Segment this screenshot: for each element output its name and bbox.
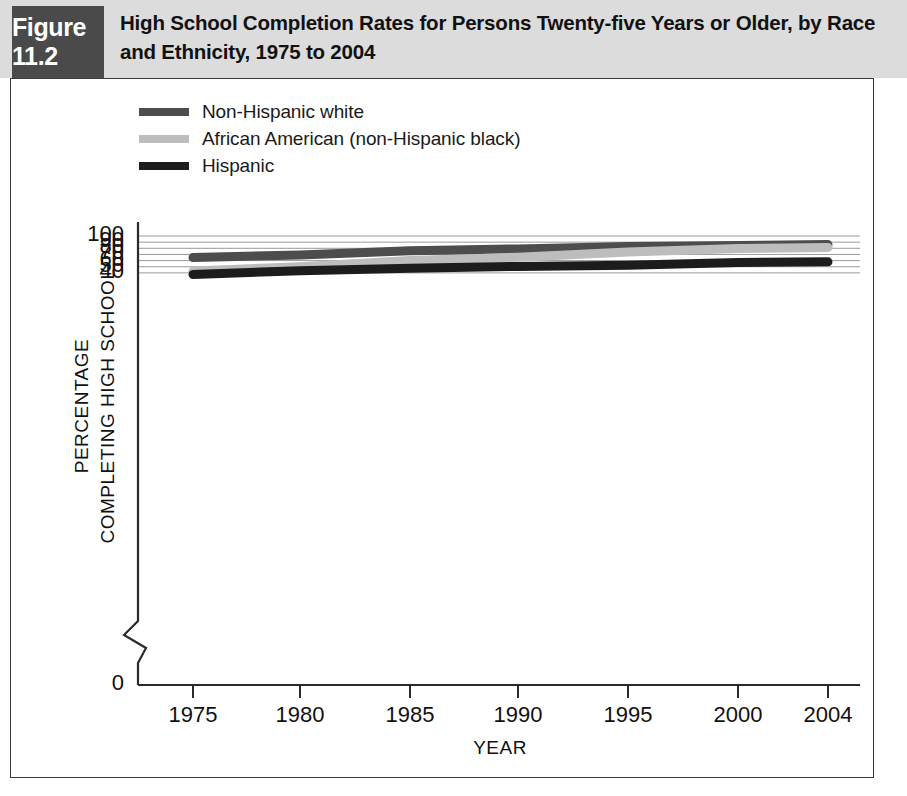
x-tick-label: 1975 bbox=[148, 702, 238, 728]
x-tick-label: 1980 bbox=[255, 702, 345, 728]
figure-number-label: Figure 11.2 bbox=[12, 13, 104, 71]
legend-label-hispanic: Hispanic bbox=[202, 155, 274, 177]
legend-item-african-american: African American (non-Hispanic black) bbox=[139, 125, 609, 152]
legend-label-non-hispanic-white: Non-Hispanic white bbox=[202, 101, 364, 123]
legend-label-african-american: African American (non-Hispanic black) bbox=[202, 128, 520, 150]
figure-title: High School Completion Rates for Persons… bbox=[120, 8, 880, 66]
x-tick-label: 1995 bbox=[583, 702, 673, 728]
legend-swatch-non-hispanic-white bbox=[139, 108, 189, 116]
figure-number-box: Figure 11.2 bbox=[12, 6, 104, 78]
y-axis-title: PERCENTAGE COMPLETING HIGH SCHOOL bbox=[69, 256, 121, 556]
x-tick-label: 1985 bbox=[365, 702, 455, 728]
chart-frame bbox=[10, 78, 874, 778]
legend-swatch-african-american bbox=[139, 135, 189, 143]
x-tick-label: 2000 bbox=[693, 702, 783, 728]
x-axis-title: YEAR bbox=[400, 737, 600, 759]
x-tick-label: 2004 bbox=[783, 702, 873, 728]
chart-legend: Non-Hispanic white African American (non… bbox=[139, 98, 609, 179]
x-tick-label: 1990 bbox=[473, 702, 563, 728]
y-axis-title-line2: COMPLETING HIGH SCHOOL bbox=[97, 269, 118, 544]
legend-item-hispanic: Hispanic bbox=[139, 152, 609, 179]
y-axis-title-line1: PERCENTAGE bbox=[71, 339, 92, 474]
y-tick-label: 0 bbox=[64, 670, 124, 696]
figure-header-band: Figure 11.2 High School Completion Rates… bbox=[0, 0, 907, 78]
legend-swatch-hispanic bbox=[139, 162, 189, 170]
legend-item-non-hispanic-white: Non-Hispanic white bbox=[139, 98, 609, 125]
